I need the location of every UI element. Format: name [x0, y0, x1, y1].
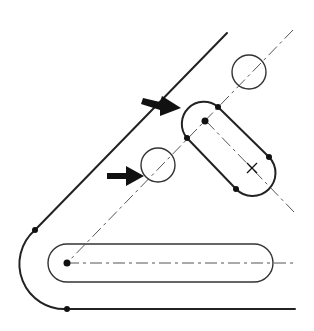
slot-vertex-dot [215, 104, 221, 110]
arrow-lower-icon [107, 166, 144, 186]
slot-vertex-dot [233, 186, 239, 192]
slot-center-cross [247, 163, 257, 173]
arrow-upper-icon [141, 96, 181, 116]
slot-vertex-dot [266, 154, 272, 160]
slot-center-dot [64, 260, 71, 267]
endpoint-dot [64, 306, 70, 312]
cad-sketch [0, 0, 314, 331]
slot-vertex-dot [184, 135, 190, 141]
endpoint-dot [32, 227, 38, 233]
reference-circle-lower [141, 148, 175, 182]
plate-edge-arc [19, 230, 67, 309]
plate-edge-angled [35, 33, 227, 230]
reference-circle-upper [232, 55, 266, 89]
slot-center-dot [202, 118, 209, 125]
slot-angled [182, 102, 276, 196]
